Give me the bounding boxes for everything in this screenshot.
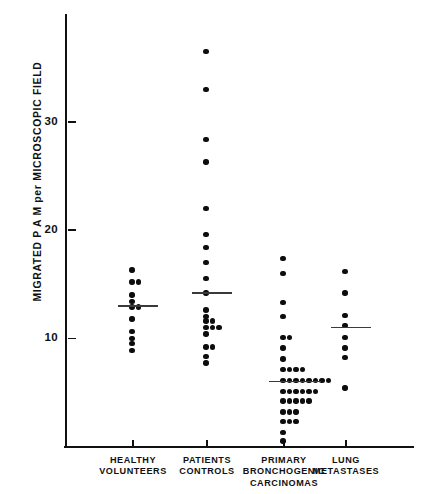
data-point: [342, 345, 347, 350]
data-point: [210, 325, 215, 330]
data-point: [280, 256, 285, 261]
data-point: [293, 398, 298, 403]
data-point: [280, 430, 285, 435]
data-point: [203, 354, 208, 359]
x-tick-0: [132, 440, 134, 447]
data-point: [280, 335, 285, 340]
data-point: [203, 159, 208, 164]
data-point: [280, 345, 285, 350]
data-point: [306, 398, 311, 403]
data-point: [280, 398, 285, 403]
data-point: [306, 389, 311, 394]
data-point: [203, 325, 208, 330]
x-axis-line: [64, 446, 414, 448]
data-point: [203, 307, 208, 312]
data-point: [203, 206, 208, 211]
mean-line-1: [192, 292, 232, 294]
x-tick-3: [345, 440, 347, 447]
data-point: [280, 271, 285, 276]
data-point: [129, 341, 134, 346]
data-point: [280, 389, 285, 394]
data-point: [203, 87, 208, 92]
mean-line-0: [118, 305, 158, 307]
data-point: [342, 290, 347, 295]
data-point: [280, 438, 285, 443]
y-tick-label-20: 20: [32, 223, 58, 235]
data-point: [300, 389, 305, 394]
data-point: [293, 367, 298, 372]
data-point: [280, 419, 285, 424]
data-point: [342, 335, 347, 340]
data-point: [287, 398, 292, 403]
data-point: [210, 318, 215, 323]
y-tick-10: [68, 338, 76, 340]
data-point: [203, 344, 208, 349]
y-tick-20: [68, 229, 76, 231]
data-point: [280, 356, 285, 361]
y-tick-label-30: 30: [32, 115, 58, 127]
data-point: [203, 137, 208, 142]
data-point: [342, 269, 347, 274]
data-point: [287, 419, 292, 424]
data-point: [293, 419, 298, 424]
data-point: [210, 344, 215, 349]
data-point: [203, 232, 208, 237]
data-point: [313, 389, 318, 394]
data-point: [280, 409, 285, 414]
data-point: [342, 385, 347, 390]
data-point: [129, 329, 134, 334]
scatter-plot: MIGRATED P A M per MICROSCOPIC FIELD 102…: [0, 0, 421, 494]
data-point: [300, 398, 305, 403]
data-point: [129, 316, 134, 321]
y-axis-line: [65, 14, 67, 448]
data-point: [203, 276, 208, 281]
data-point: [203, 245, 208, 250]
data-point: [287, 367, 292, 372]
x-tick-1: [206, 440, 208, 447]
data-point: [280, 300, 285, 305]
data-point: [136, 279, 141, 284]
data-point: [129, 292, 134, 297]
data-point: [342, 355, 347, 360]
data-point: [287, 389, 292, 394]
mean-line-3: [331, 327, 371, 329]
group-label-0: HEALTHY VOLUNTEERS: [90, 455, 176, 478]
data-point: [203, 260, 208, 265]
data-point: [129, 348, 134, 353]
data-point: [280, 314, 285, 319]
data-point: [203, 318, 208, 323]
y-tick-label-10: 10: [32, 331, 58, 343]
data-point: [280, 367, 285, 372]
data-point: [293, 409, 298, 414]
data-point: [300, 367, 305, 372]
data-point: [129, 267, 134, 272]
mean-line-2: [269, 381, 321, 383]
data-point: [203, 360, 208, 365]
data-point: [326, 378, 331, 383]
y-tick-30: [68, 121, 76, 123]
data-point: [203, 331, 208, 336]
data-point: [287, 409, 292, 414]
data-point: [203, 49, 208, 54]
y-axis-title: MIGRATED P A M per MICROSCOPIC FIELD: [32, 102, 43, 302]
group-label-3: LUNG METASTASES: [304, 455, 388, 478]
data-point: [216, 325, 221, 330]
data-point: [342, 313, 347, 318]
data-point: [287, 335, 292, 340]
data-point: [129, 279, 134, 284]
data-point: [293, 389, 298, 394]
